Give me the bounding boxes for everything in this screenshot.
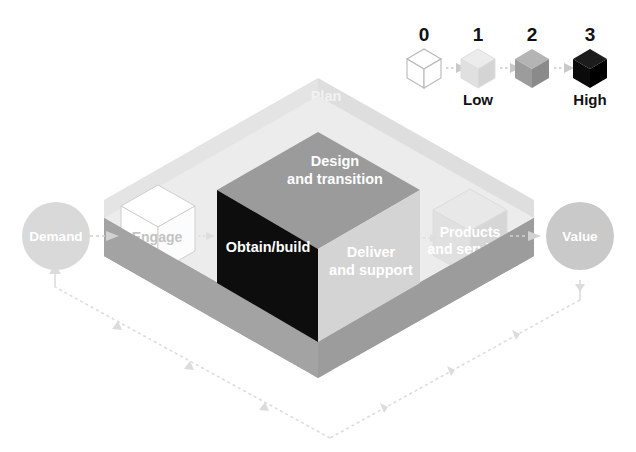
legend-caption-low: Low (463, 91, 493, 108)
feedback-arrowhead-value (575, 284, 585, 292)
legend-item-0[interactable]: 0 (407, 24, 441, 88)
demand-label: Demand (29, 229, 82, 244)
design-transition-label-line2: and transition (287, 171, 383, 187)
feedback-arrowhead-l3 (112, 321, 122, 330)
legend-item-3[interactable]: 3 High (573, 24, 607, 108)
legend: 0 1 Low (407, 24, 607, 108)
feedback-arrowhead-r3 (380, 403, 388, 413)
design-transition-label-line1: Design (311, 153, 359, 169)
feedback-arrowhead-r1 (512, 330, 520, 340)
obtain-build-label: Obtain/build (226, 239, 311, 255)
demand-node[interactable]: Demand (22, 202, 90, 270)
legend-item-2[interactable]: 2 (515, 24, 549, 88)
legend-num-2: 2 (527, 24, 538, 45)
deliver-support-label-line1: Deliver (347, 244, 396, 260)
value-node[interactable]: Value (546, 202, 614, 270)
deliver-support-label-line2: and support (329, 262, 413, 278)
legend-arrow-2-3 (554, 63, 574, 73)
diagram-canvas: Plan Improve Engage Products and service… (0, 0, 636, 452)
legend-item-1[interactable]: 1 Low (461, 24, 495, 108)
legend-num-1: 1 (473, 24, 484, 45)
value-label: Value (562, 229, 598, 244)
service-value-system-diagram: Plan Improve Engage Products and service… (0, 0, 636, 452)
legend-num-0: 0 (419, 24, 430, 45)
feedback-arrowhead-r2 (447, 366, 455, 376)
feedback-arrowhead-l1 (259, 402, 269, 411)
products-label-line1: Products (440, 224, 501, 240)
legend-num-3: 3 (585, 24, 596, 45)
legend-arrow-2-3-head (564, 63, 574, 73)
arrow-products-to-value-head (528, 231, 541, 241)
legend-caption-high: High (573, 91, 606, 108)
